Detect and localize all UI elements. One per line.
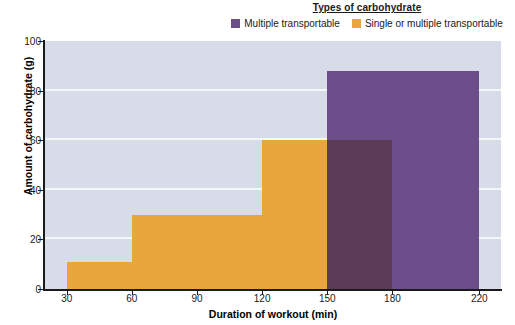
- chart-figure: Types of carbohydrate Multiple transport…: [0, 0, 515, 325]
- x-tick-mark-90: [197, 291, 198, 295]
- x-axis-ticks: 306090120150180220: [0, 0, 515, 325]
- x-axis-title: Duration of workout (min): [45, 308, 501, 320]
- x-tick-mark-120: [262, 291, 263, 295]
- x-tick-mark-150: [327, 291, 328, 295]
- x-tick-mark-220: [479, 291, 480, 295]
- x-tick-mark-180: [392, 291, 393, 295]
- x-tick-mark-60: [132, 291, 133, 295]
- x-tick-mark-30: [67, 291, 68, 295]
